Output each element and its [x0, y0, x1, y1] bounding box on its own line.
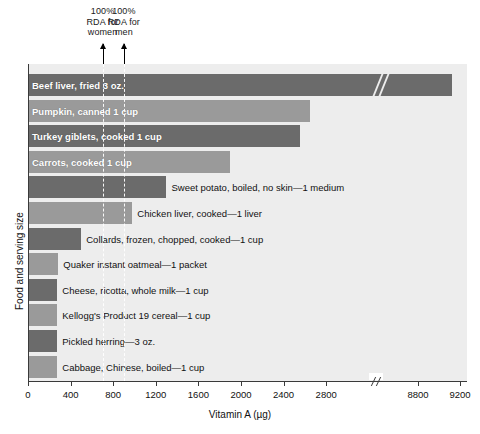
x-tick-label-1600: 1600	[188, 389, 209, 400]
bar-label-1: Beef liver, fried 3 oz.	[32, 80, 124, 91]
plot-area: Beef liver, fried 3 oz.Pumpkin, canned 1…	[28, 64, 467, 381]
y-axis-line	[28, 64, 29, 382]
rda-men-note: 100% RDA for men	[94, 6, 154, 38]
bar-8	[28, 253, 58, 275]
bar-10	[28, 304, 57, 326]
x-tick-400	[71, 382, 72, 386]
bar-9	[28, 279, 57, 301]
bar-7	[28, 228, 81, 250]
bar-label-6: Chicken liver, cooked—1 liver	[137, 208, 262, 219]
vitamin-a-bar-chart: 100% RDA for women 100% RDA for men Beef…	[0, 0, 480, 434]
rda-men-line	[124, 64, 126, 381]
x-tick-8800	[418, 382, 419, 386]
x-tick-1200	[156, 382, 157, 386]
x-tick-800	[113, 382, 114, 386]
x-tick-label-2800: 2800	[316, 389, 337, 400]
rda-women-arrow	[103, 44, 104, 64]
x-tick-label-9200: 9200	[449, 389, 470, 400]
x-tick-2800	[326, 382, 327, 386]
x-tick-label-0: 0	[25, 389, 30, 400]
bar-label-10: Kellogg's Product 19 cereal—1 cup	[62, 310, 210, 321]
x-axis-break-icon	[370, 377, 382, 386]
x-tick-2000	[241, 382, 242, 386]
bar-label-11: Pickled herring—3 oz.	[62, 336, 155, 347]
bar-label-3: Turkey giblets, cooked 1 cup	[32, 131, 162, 142]
bar-6	[28, 202, 132, 224]
x-tick-label-400: 400	[63, 389, 79, 400]
x-tick-label-8800: 8800	[407, 389, 428, 400]
bar-label-5: Sweet potato, boiled, no skin—1 medium	[171, 182, 344, 193]
bar-label-9: Cheese, ricotta, whole milk—1 cup	[62, 285, 208, 296]
bar-5	[28, 176, 166, 198]
bar-label-7: Collards, frozen, chopped, cooked—1 cup	[86, 234, 263, 245]
bar-label-2: Pumpkin, canned 1 cup	[32, 106, 138, 117]
x-tick-2400	[284, 382, 285, 386]
bar-12	[28, 356, 57, 378]
x-tick-label-2400: 2400	[273, 389, 294, 400]
rda-men-arrow	[124, 44, 125, 64]
x-axis-line	[28, 381, 467, 382]
bar-label-4: Carrots, cooked 1 cup	[32, 157, 132, 168]
y-axis-title: Food and serving size	[14, 212, 25, 310]
x-tick-label-1200: 1200	[145, 389, 166, 400]
x-tick-label-800: 800	[105, 389, 121, 400]
x-tick-0	[28, 382, 29, 386]
rda-women-line	[103, 64, 105, 381]
bar-11	[28, 330, 57, 352]
bar-break-icon	[375, 74, 389, 96]
x-tick-9200	[460, 382, 461, 386]
x-tick-label-2000: 2000	[230, 389, 251, 400]
bar-label-12: Cabbage, Chinese, boiled—1 cup	[62, 362, 204, 373]
x-axis-title: Vitamin A (µg)	[0, 409, 480, 420]
x-tick-1600	[198, 382, 199, 386]
bar-label-8: Quaker instant oatmeal—1 packet	[63, 259, 207, 270]
